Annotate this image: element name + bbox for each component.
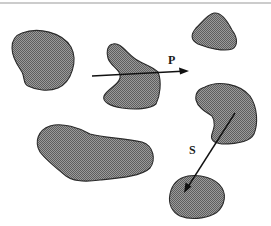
blob-center (104, 44, 160, 109)
diagram-canvas: P S (0, 0, 271, 226)
vector-p-label: P (168, 53, 175, 67)
particle-vector-diagram: P S (0, 0, 271, 226)
blob-top-right (192, 13, 236, 50)
blob-bottom-right (169, 176, 224, 219)
blob-bottom-left (37, 125, 153, 181)
blob-right-middle (196, 84, 257, 144)
vector-p-arrowhead-icon (179, 68, 189, 75)
vector-s-label: S (189, 143, 196, 157)
blob-top-left (12, 31, 74, 91)
